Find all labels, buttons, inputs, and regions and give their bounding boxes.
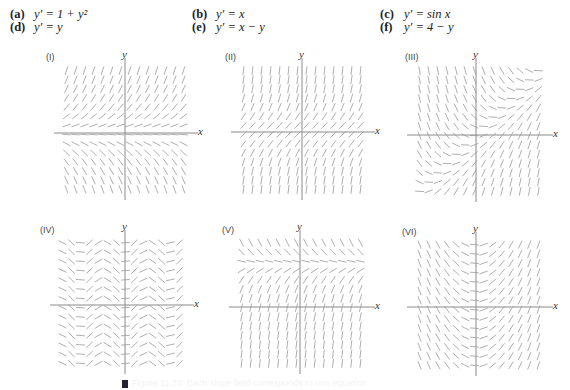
equation-tag: (b) (192, 7, 216, 21)
equation-expression: y′ = 1 + y² (34, 7, 87, 21)
slope-field-plot (407, 236, 555, 376)
equation-expression: y′ = x − y (216, 20, 265, 34)
equation-tag: (a) (10, 7, 34, 21)
slope-field-plot (229, 234, 377, 374)
equation-b: (b)y′ = x (192, 7, 245, 21)
slope-field-plot (407, 62, 555, 202)
y-axis-label: y (122, 48, 127, 60)
y-axis-label: y (122, 220, 127, 232)
equation-a: (a)y′ = 1 + y² (10, 7, 87, 21)
equation-tag: (f) (380, 20, 404, 34)
equation-tag: (e) (192, 20, 216, 34)
y-axis-label: y (473, 48, 478, 60)
equation-expression: y′ = 4 − y (404, 20, 453, 34)
equation-expression: y′ = x (216, 7, 245, 21)
slope-field-plot (54, 62, 200, 200)
equation-tag: (c) (380, 7, 404, 21)
equation-tag: (d) (10, 20, 34, 34)
equation-c: (c)y′ = sin x (380, 7, 450, 21)
slope-field-plot (50, 234, 196, 374)
equation-e: (e)y′ = x − y (192, 20, 265, 34)
equation-f: (f)y′ = 4 − y (380, 20, 453, 34)
caption-marker (122, 380, 128, 388)
equation-expression: y′ = y (34, 20, 63, 34)
y-axis-label: y (473, 222, 478, 234)
slope-field-plot (231, 62, 377, 200)
panel-label: (I) (46, 52, 55, 62)
equation-expression: y′ = sin x (404, 7, 450, 21)
equation-d: (d)y′ = y (10, 20, 63, 34)
figure-caption: Figure 11.33: Each slope field correspon… (122, 378, 367, 388)
caption-text: Figure 11.33: Each slope field correspon… (132, 378, 367, 388)
y-axis-label: y (297, 220, 302, 232)
y-axis-label: y (299, 48, 304, 60)
panel-label: (II) (225, 52, 236, 62)
panel-label: (III) (405, 52, 419, 62)
